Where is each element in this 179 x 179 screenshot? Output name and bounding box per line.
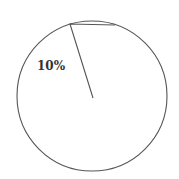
slice-label-10-percent: 10% xyxy=(37,59,66,73)
pie-chart: 10% xyxy=(0,0,179,179)
